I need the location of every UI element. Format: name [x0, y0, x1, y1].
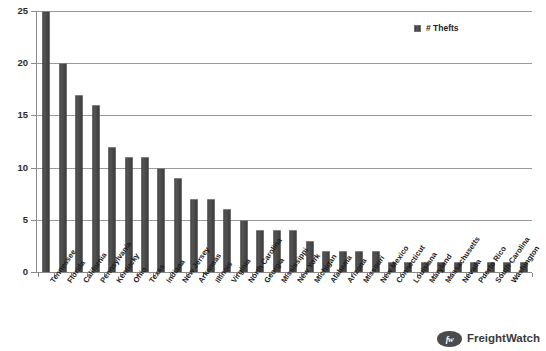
- legend-swatch-thefts: [414, 25, 421, 32]
- bar-slot: [351, 11, 367, 272]
- bar-slot: [269, 11, 285, 272]
- bar-slot: [203, 11, 219, 272]
- bar: [43, 11, 50, 272]
- bar-chart: 0510152025 TennesseeFloridaCaliforniaPen…: [0, 0, 546, 351]
- bar-slot: [137, 11, 153, 272]
- bar-slot: [120, 11, 136, 272]
- bar-slot: [87, 11, 103, 272]
- y-axis-tick-mark: [31, 220, 36, 221]
- bar-slot: [54, 11, 70, 272]
- bar-slot: [71, 11, 87, 272]
- bar-slot: [367, 11, 383, 272]
- y-axis-labels: 0510152025: [0, 0, 28, 351]
- bar-slot: [483, 11, 499, 272]
- bar: [92, 105, 99, 272]
- chart-legend: # Thefts: [414, 24, 459, 33]
- bar: [59, 63, 66, 272]
- legend-label-thefts: # Thefts: [426, 24, 459, 33]
- y-axis-tick-label: 5: [0, 215, 28, 225]
- bar-slot: [417, 11, 433, 272]
- bar-slot: [236, 11, 252, 272]
- bars-layer: [38, 11, 532, 272]
- bar-slot: [466, 11, 482, 272]
- bar-slot: [384, 11, 400, 272]
- bar-slot: [285, 11, 301, 272]
- y-axis-tick-label: 0: [0, 267, 28, 277]
- x-axis-tick: [38, 273, 39, 277]
- bar-slot: [516, 11, 532, 272]
- y-axis-tick-label: 20: [0, 58, 28, 68]
- bar: [109, 147, 116, 272]
- y-axis-tick-mark: [31, 63, 36, 64]
- bar-slot: [450, 11, 466, 272]
- bar-slot: [186, 11, 202, 272]
- bar-slot: [38, 11, 54, 272]
- bar-slot: [252, 11, 268, 272]
- bar-slot: [318, 11, 334, 272]
- y-axis-tick-mark: [31, 168, 36, 169]
- x-axis-tick: [532, 273, 533, 277]
- bar-slot: [153, 11, 169, 272]
- bar-slot: [104, 11, 120, 272]
- bar-slot: [499, 11, 515, 272]
- y-axis-tick-label: 15: [0, 110, 28, 120]
- y-axis-tick-mark: [31, 272, 36, 273]
- freightwatch-logo-icon: fw: [437, 331, 462, 347]
- freightwatch-brand-name: FreightWatch: [467, 333, 540, 345]
- bar-slot: [400, 11, 416, 272]
- y-axis-tick-label: 10: [0, 163, 28, 173]
- freightwatch-brand: fw FreightWatch: [437, 331, 540, 347]
- bar-slot: [219, 11, 235, 272]
- y-axis-line: [36, 11, 37, 273]
- bar: [142, 157, 149, 272]
- bar-slot: [170, 11, 186, 272]
- y-axis-tick-label: 25: [0, 6, 28, 16]
- bar-slot: [433, 11, 449, 272]
- bar: [158, 168, 165, 272]
- bar-slot: [301, 11, 317, 272]
- bar-slot: [334, 11, 350, 272]
- y-axis-tick-mark: [31, 115, 36, 116]
- y-axis-tick-mark: [31, 11, 36, 12]
- freightwatch-logo-text: fw: [446, 335, 454, 344]
- bar: [76, 95, 83, 272]
